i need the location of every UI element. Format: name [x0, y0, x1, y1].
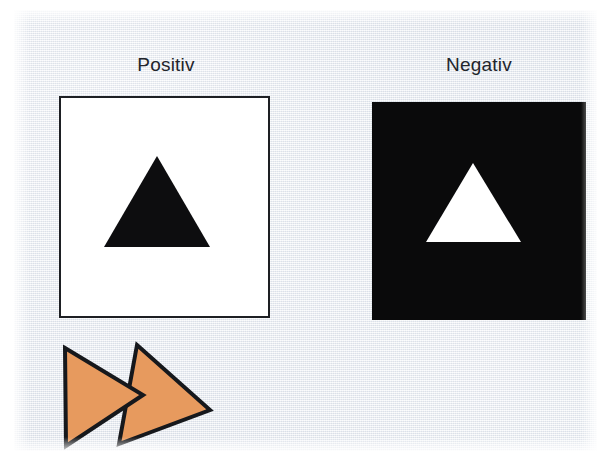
black-triangle-icon	[104, 156, 210, 247]
negative-image-box	[372, 102, 586, 320]
orange-arrows-icon	[50, 336, 230, 458]
scanned-figure-panel: Positiv Negativ	[14, 10, 597, 451]
caption-negativ: Negativ	[372, 54, 586, 76]
figure-page: Positiv Negativ	[0, 0, 609, 460]
white-triangle-icon	[426, 163, 521, 242]
white-triangle-shape	[426, 163, 521, 242]
orange-arrow-pair	[50, 336, 230, 458]
caption-positiv: Positiv	[60, 54, 272, 76]
positive-image-box	[59, 96, 270, 318]
black-triangle-shape	[104, 156, 210, 247]
